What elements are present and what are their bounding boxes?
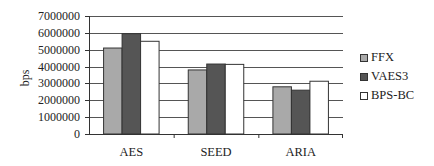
bar-bps-bc-seed xyxy=(225,64,244,134)
legend-label: BPS-BC xyxy=(371,89,414,102)
legend-label: VAES3 xyxy=(371,70,408,83)
y-axis-label: bps xyxy=(19,63,31,93)
bar-ffx-aes xyxy=(104,48,123,134)
bar-bps-bc-aes xyxy=(141,41,160,134)
bar-ffx-aria xyxy=(273,87,292,134)
x-tick-label: ARIA xyxy=(271,146,331,159)
legend-swatch-icon xyxy=(360,92,368,100)
bar-ffx-seed xyxy=(188,70,207,134)
bar-vaes3-aria xyxy=(291,90,310,134)
bar-chart: 0100000020000003000000400000050000006000… xyxy=(0,0,434,166)
legend-item-vaes3: VAES3 xyxy=(360,70,408,83)
legend-label: FFX xyxy=(371,51,394,64)
legend-item-bps-bc: BPS-BC xyxy=(360,89,414,102)
legend-item-ffx: FFX xyxy=(360,51,394,64)
y-tick-label: 6000000 xyxy=(10,27,80,39)
x-tick-label: AES xyxy=(101,146,161,159)
legend-swatch-icon xyxy=(360,54,368,62)
bar-vaes3-aes xyxy=(122,34,141,134)
y-tick-label: 7000000 xyxy=(10,10,80,22)
y-tick-label: 1000000 xyxy=(10,111,80,123)
bar-bps-bc-aria xyxy=(310,81,329,134)
y-tick-label: 0 xyxy=(10,128,80,140)
legend-swatch-icon xyxy=(360,73,368,81)
bar-vaes3-seed xyxy=(207,64,226,134)
y-tick-label: 5000000 xyxy=(10,44,80,56)
x-tick-label: SEED xyxy=(186,146,246,159)
y-tick-label: 2000000 xyxy=(10,94,80,106)
